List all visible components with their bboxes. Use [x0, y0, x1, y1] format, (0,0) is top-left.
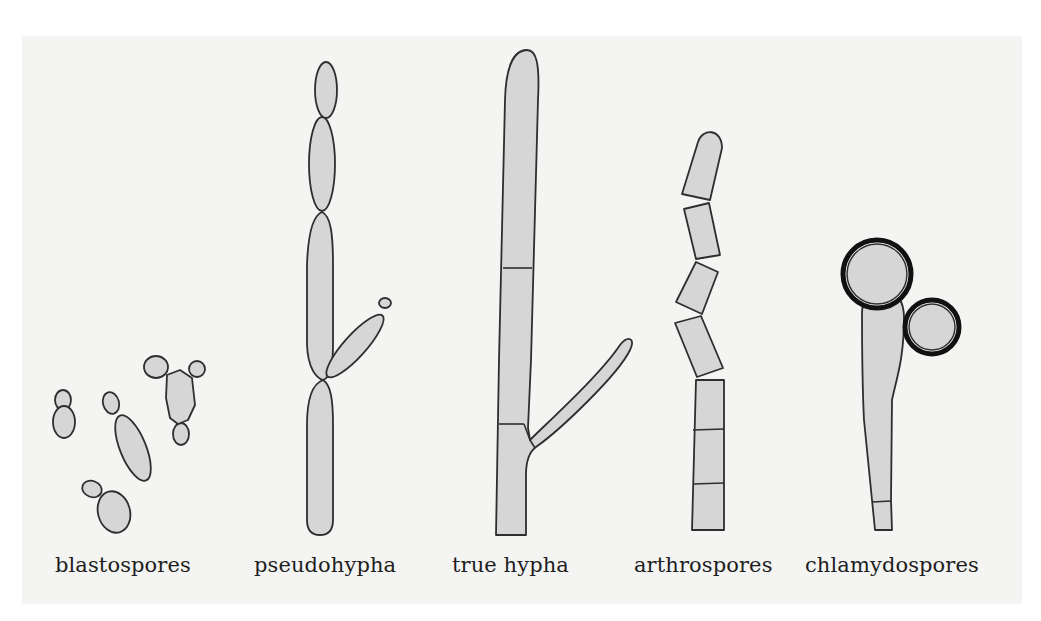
- blastospore-cluster-2: [100, 390, 158, 485]
- chlamydospore-stalk-septum: [872, 501, 891, 502]
- arthrospore-septum: [693, 429, 724, 430]
- pseudohypha-apical-cell: [315, 62, 337, 118]
- arthrospore-septum: [693, 483, 724, 484]
- fungal-morphology-figure: [0, 0, 1041, 621]
- chlamydospore-cell: [909, 304, 955, 350]
- figure-canvas: blastospores pseudohypha true hypha arth…: [0, 0, 1041, 621]
- chlamydospores-illustration: [843, 240, 959, 530]
- arthrospore-chain-base: [692, 380, 724, 530]
- blastospore-cluster-3: [144, 356, 205, 445]
- true-hypha-illustration: [496, 50, 632, 535]
- label-arthrospores: arthrospores: [634, 553, 773, 577]
- chlamydospore-stalk: [862, 292, 904, 530]
- pseudohypha-cell: [309, 117, 335, 211]
- arthrospore: [675, 316, 723, 377]
- arthrospores-illustration: [675, 132, 724, 530]
- true-hypha-wall: [496, 50, 632, 535]
- label-chlamydospores: chlamydospores: [805, 553, 979, 577]
- chlamydospore-cell: [847, 244, 907, 304]
- blastospore-cluster-1: [53, 390, 75, 438]
- arthrospore-apical: [682, 132, 722, 200]
- arthrospore: [684, 203, 720, 259]
- blastospore-cluster-4: [80, 478, 135, 536]
- label-pseudohypha: pseudohypha: [254, 553, 396, 577]
- label-blastospores: blastospores: [55, 553, 191, 577]
- pseudohypha-basal-cell: [307, 380, 333, 535]
- blastospores-illustration: [53, 356, 205, 536]
- pseudohypha-illustration: [307, 62, 391, 535]
- arthrospore: [676, 262, 718, 314]
- label-true-hypha: true hypha: [452, 553, 569, 577]
- pseudohypha-branch-bud: [379, 298, 391, 308]
- pseudohypha-cell: [307, 212, 333, 380]
